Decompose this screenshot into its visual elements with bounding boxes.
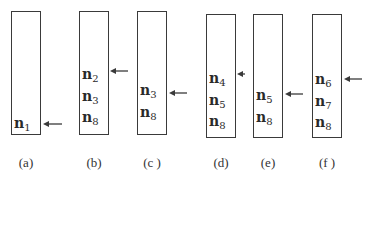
node-base: n xyxy=(256,109,266,125)
node-label: n5 xyxy=(256,88,273,102)
node-base: n xyxy=(82,66,92,82)
node-subscript: 4 xyxy=(219,77,225,88)
panel-caption: (e) xyxy=(261,155,275,171)
node-subscript: 5 xyxy=(266,94,272,105)
left-arrow-icon xyxy=(110,67,128,75)
node-base: n xyxy=(209,92,219,108)
node-label: n3 xyxy=(82,89,99,103)
left-arrow-icon xyxy=(169,89,187,97)
node-subscript: 8 xyxy=(92,116,98,127)
panel-caption: (c ) xyxy=(143,155,161,171)
node-base: n xyxy=(315,71,325,87)
node-label: n8 xyxy=(82,110,99,124)
node-base: n xyxy=(209,70,219,86)
node-subscript: 1 xyxy=(24,122,30,133)
node-subscript: 8 xyxy=(325,121,331,132)
node-subscript: 5 xyxy=(219,99,225,110)
node-label: n4 xyxy=(209,71,226,85)
panel-caption: (b) xyxy=(86,155,101,171)
node-label: n3 xyxy=(140,83,157,97)
node-label: n8 xyxy=(256,110,273,124)
node-label: n6 xyxy=(315,72,332,86)
node-base: n xyxy=(315,114,325,130)
node-subscript: 3 xyxy=(92,95,98,106)
panel-caption: (f ) xyxy=(319,155,335,171)
node-label: n1 xyxy=(14,116,31,130)
node-base: n xyxy=(140,104,150,120)
panel-caption: (d) xyxy=(213,155,228,171)
node-subscript: 3 xyxy=(150,89,156,100)
node-base: n xyxy=(82,88,92,104)
left-arrow-icon xyxy=(43,120,62,128)
node-subscript: 6 xyxy=(325,78,331,89)
node-subscript: 8 xyxy=(266,116,272,127)
node-label: n8 xyxy=(315,115,332,129)
node-label: n2 xyxy=(82,67,99,81)
node-label: n7 xyxy=(315,94,332,108)
panel-caption: (a) xyxy=(19,155,33,171)
node-subscript: 7 xyxy=(325,100,331,111)
node-subscript: 8 xyxy=(219,120,225,131)
left-arrow-icon xyxy=(285,90,303,98)
node-base: n xyxy=(209,113,219,129)
node-subscript: 2 xyxy=(92,73,98,84)
left-arrow-icon xyxy=(344,75,362,83)
node-base: n xyxy=(315,93,325,109)
node-label: n5 xyxy=(209,93,226,107)
node-label: n8 xyxy=(209,114,226,128)
node-base: n xyxy=(140,82,150,98)
left-arrow-icon xyxy=(237,70,245,78)
node-subscript: 8 xyxy=(150,111,156,122)
node-base: n xyxy=(82,109,92,125)
node-base: n xyxy=(14,115,24,131)
node-label: n8 xyxy=(140,105,157,119)
node-base: n xyxy=(256,87,266,103)
